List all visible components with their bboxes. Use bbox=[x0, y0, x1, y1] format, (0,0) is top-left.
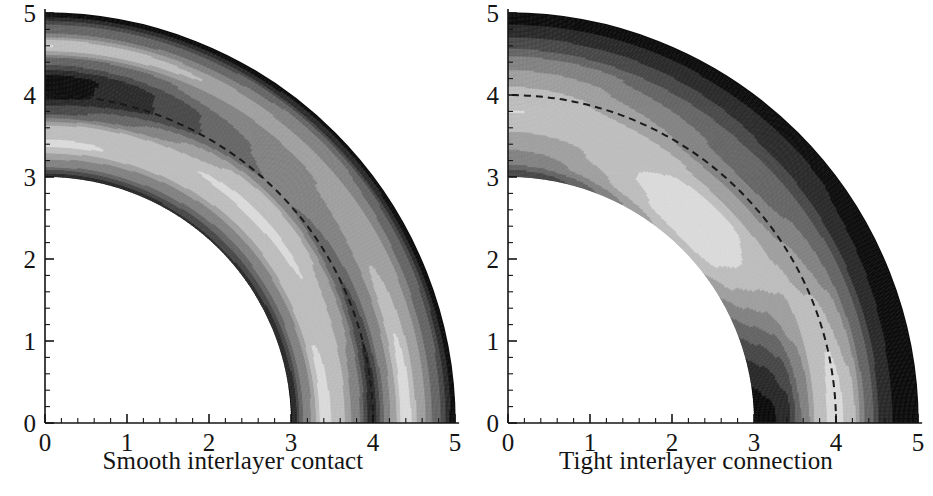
panel-tight-interlayer-connection: 012345012345 Tight interlayer connection bbox=[463, 0, 929, 496]
y-tick-label: 5 bbox=[24, 0, 37, 27]
contour-field bbox=[45, 13, 455, 423]
contour-field bbox=[508, 13, 918, 423]
figure-root: 012345012345 Smooth interlayer contact 0… bbox=[0, 0, 933, 496]
contour-plot-left: 012345012345 bbox=[0, 0, 466, 496]
y-tick-label: 1 bbox=[487, 328, 500, 355]
y-tick-label: 2 bbox=[487, 246, 500, 273]
y-tick-label: 3 bbox=[24, 164, 37, 191]
y-tick-label: 4 bbox=[24, 82, 37, 109]
y-tick-label: 0 bbox=[24, 410, 37, 437]
y-tick-label: 0 bbox=[487, 410, 500, 437]
y-tick-label: 5 bbox=[487, 0, 500, 27]
panel-caption-left: Smooth interlayer contact bbox=[0, 447, 466, 475]
y-tick-label: 1 bbox=[24, 328, 37, 355]
y-tick-label: 2 bbox=[24, 246, 37, 273]
panel-smooth-interlayer-contact: 012345012345 Smooth interlayer contact bbox=[0, 0, 466, 496]
y-tick-label: 3 bbox=[487, 164, 500, 191]
contour-plot-right: 012345012345 bbox=[463, 0, 929, 496]
panel-caption-right: Tight interlayer connection bbox=[463, 447, 929, 475]
y-tick-label: 4 bbox=[487, 82, 500, 109]
